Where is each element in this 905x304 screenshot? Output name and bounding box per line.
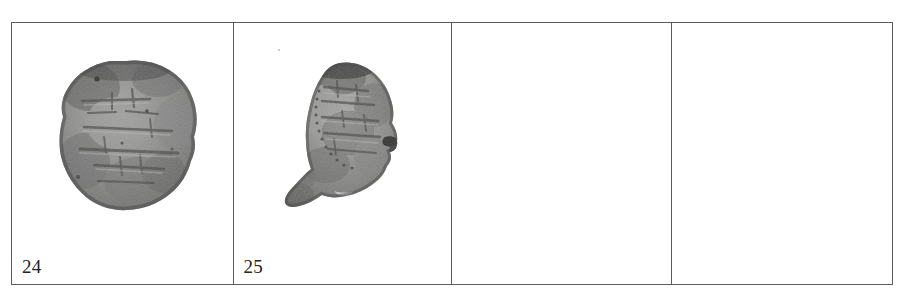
empty-cell-body-4 [672,23,893,284]
table-cell-coin-24: 24 [12,23,234,284]
table-cell-empty-4 [672,23,893,284]
table-cell-coin-25: 25 [234,23,453,284]
coin-24-photograph [54,57,202,215]
coin-label-25: 25 [244,257,264,277]
scan-speck [278,49,280,51]
scanned-page-surface: 24 [0,0,905,304]
coin-label-24: 24 [22,257,42,277]
empty-cell-body-3 [452,23,671,284]
coin-25-photograph [282,61,404,211]
coin-plate-table: 24 [11,22,893,285]
table-cell-empty-3 [452,23,672,284]
